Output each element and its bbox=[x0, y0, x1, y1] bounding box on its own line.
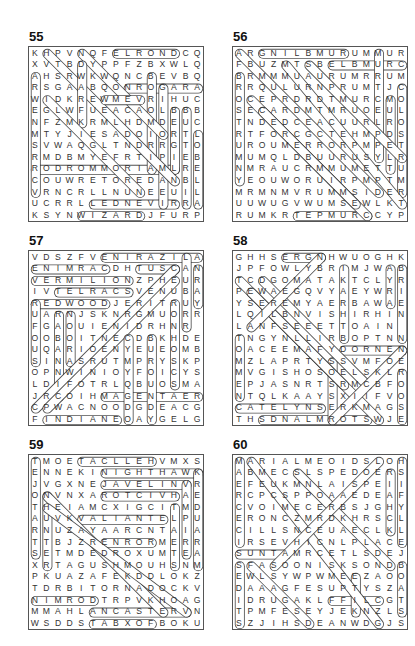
grid-letter: E bbox=[361, 163, 373, 175]
grid-letter: X bbox=[337, 390, 349, 402]
grid-letter: E bbox=[99, 151, 111, 163]
grid-letter: N bbox=[64, 309, 76, 321]
grid-letter: U bbox=[233, 140, 245, 152]
grid-letter: W bbox=[291, 571, 303, 583]
grid-letter: C bbox=[180, 402, 192, 414]
grid-letter: N bbox=[157, 286, 169, 298]
grid-letter: U bbox=[349, 117, 361, 129]
grid-letter: M bbox=[41, 151, 53, 163]
grid-letter: O bbox=[75, 594, 87, 606]
grid-letter: D bbox=[256, 274, 268, 286]
grid-letter: S bbox=[395, 606, 407, 618]
grid-letter: Z bbox=[291, 513, 303, 525]
grid-letter: U bbox=[326, 151, 338, 163]
grid-letter: J bbox=[64, 128, 76, 140]
grid-letter: C bbox=[191, 93, 203, 105]
grid-letter: R bbox=[303, 548, 315, 560]
grid-letter: E bbox=[268, 344, 280, 356]
grid-letter: O bbox=[133, 128, 145, 140]
grid-letter: A bbox=[372, 571, 384, 583]
grid-letter: J bbox=[110, 297, 122, 309]
grid-letter: S bbox=[361, 455, 373, 467]
grid-letter: O bbox=[326, 455, 338, 467]
grid-letter: G bbox=[384, 594, 396, 606]
grid-letter: A bbox=[326, 478, 338, 490]
puzzle-60: 60 MARIALMEOIDSLOHABMECSLSPEDOERSEFEUKMN… bbox=[232, 438, 408, 630]
grid-letter: Q bbox=[256, 390, 268, 402]
grid-letter: E bbox=[99, 344, 111, 356]
grid-letter: E bbox=[291, 321, 303, 333]
grid-letter bbox=[395, 321, 407, 333]
grid-letter: B bbox=[52, 332, 64, 344]
grid-letter: U bbox=[337, 209, 349, 221]
grid-letter: D bbox=[372, 548, 384, 560]
grid-letter: N bbox=[52, 367, 64, 379]
grid-letter: F bbox=[75, 251, 87, 263]
grid-letter: F bbox=[122, 59, 134, 71]
grid-letter: F bbox=[41, 117, 53, 129]
grid-letter: F bbox=[395, 490, 407, 502]
grid-letter: C bbox=[180, 47, 192, 59]
grid-letter: T bbox=[233, 332, 245, 344]
grid-letter: O bbox=[110, 274, 122, 286]
grid-letter: L bbox=[180, 251, 192, 263]
grid-letter: J bbox=[99, 478, 111, 490]
grid-letter: R bbox=[395, 367, 407, 379]
grid-letter: O bbox=[29, 490, 41, 502]
grid-letter: U bbox=[168, 286, 180, 298]
grid-letter: R bbox=[191, 274, 203, 286]
grid-letter: M bbox=[361, 140, 373, 152]
grid-letter: N bbox=[168, 478, 180, 490]
grid-letter: P bbox=[303, 571, 315, 583]
grid-letter: N bbox=[168, 321, 180, 333]
grid-letter: S bbox=[99, 559, 111, 571]
grid-letter: T bbox=[168, 501, 180, 513]
grid-letter: E bbox=[29, 105, 41, 117]
grid-letter: E bbox=[29, 263, 41, 275]
grid-letter: U bbox=[314, 186, 326, 198]
grid-letter: L bbox=[87, 274, 99, 286]
grid-letter: B bbox=[52, 536, 64, 548]
grid-letter: T bbox=[291, 59, 303, 71]
grid-letter: C bbox=[372, 594, 384, 606]
grid-letter: U bbox=[256, 59, 268, 71]
grid-letter: Z bbox=[245, 355, 257, 367]
grid-letter: F bbox=[256, 128, 268, 140]
grid-letter: O bbox=[133, 536, 145, 548]
grid-letter: I bbox=[75, 274, 87, 286]
grid-letter: U bbox=[87, 105, 99, 117]
grid-letter: N bbox=[99, 413, 111, 425]
grid-letter: H bbox=[384, 501, 396, 513]
grid-letter: I bbox=[145, 151, 157, 163]
grid-letter: L bbox=[145, 478, 157, 490]
grid-letter: I bbox=[157, 93, 169, 105]
grid-letter: D bbox=[75, 59, 87, 71]
grid-letter: E bbox=[157, 402, 169, 414]
grid-letter: D bbox=[361, 617, 373, 629]
grid-letter: O bbox=[268, 263, 280, 275]
grid-letter: E bbox=[268, 536, 280, 548]
grid-letter: P bbox=[133, 355, 145, 367]
grid-letter: O bbox=[110, 367, 122, 379]
grid-letter: V bbox=[180, 606, 192, 618]
grid-letter: Q bbox=[110, 70, 122, 82]
grid-letter: M bbox=[87, 501, 99, 513]
grid-letter: A bbox=[64, 355, 76, 367]
grid-letter: Q bbox=[191, 59, 203, 71]
grid-letter: E bbox=[337, 367, 349, 379]
grid-letter: N bbox=[64, 209, 76, 221]
grid-letter: W bbox=[64, 367, 76, 379]
grid-letter: E bbox=[157, 70, 169, 82]
grid-letter: C bbox=[268, 490, 280, 502]
grid-letter: T bbox=[314, 105, 326, 117]
grid-letter: H bbox=[41, 70, 53, 82]
grid-letter: J bbox=[395, 548, 407, 560]
grid-letter: E bbox=[279, 606, 291, 618]
grid-letter: E bbox=[268, 117, 280, 129]
grid-letter: R bbox=[122, 209, 134, 221]
grid-letter: R bbox=[245, 140, 257, 152]
grid-letter: G bbox=[52, 478, 64, 490]
grid-letter: X bbox=[29, 59, 41, 71]
puzzle-number: 56 bbox=[233, 30, 408, 44]
puzzle-number: 60 bbox=[233, 438, 408, 452]
